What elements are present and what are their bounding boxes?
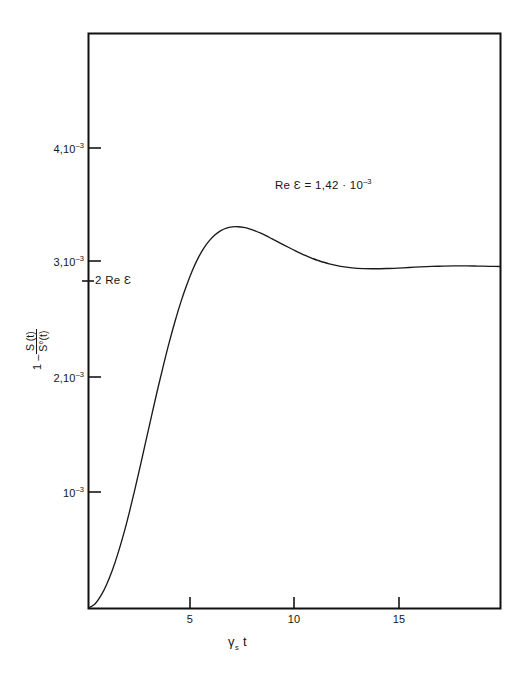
gamma-symbol: γ xyxy=(228,634,235,649)
two-re-epsilon-label: 2 Re Ɛ xyxy=(95,274,131,286)
annotation-exponent: –3 xyxy=(363,177,371,186)
y-title-numerator: S (t) xyxy=(24,329,37,354)
y-title-lead: 1 – xyxy=(31,355,43,370)
annotation-mantissa: 1,42 · 10 xyxy=(315,179,363,191)
y-tick-label-1e-3: 10–3 xyxy=(36,485,84,499)
y-title-denominator: S°(t) xyxy=(37,329,49,354)
re-epsilon-annotation: Re Ɛ = 1,42 · 10–3 xyxy=(275,177,372,191)
y-axis-title: 1 –S (t)S°(t) xyxy=(24,328,49,370)
gamma-subscript: s xyxy=(235,643,239,652)
figure-container: 4,10–3 3,10–3 2,10–3 10–3 2 Re Ɛ 5 10 15… xyxy=(0,0,519,677)
x-tick-label-5: 5 xyxy=(175,613,205,625)
x-axis-ticks xyxy=(190,597,399,609)
y-tick-label-3e-3: 3,10–3 xyxy=(36,254,84,268)
y-tick-label-4e-3: 4,10–3 xyxy=(36,141,84,155)
x-axis-title: γs t xyxy=(228,634,247,652)
time-symbol: t xyxy=(243,634,247,649)
y-tick-label-2e-3: 2,10–3 xyxy=(36,370,84,384)
x-tick-label-10: 10 xyxy=(279,613,309,625)
plot-frame xyxy=(89,34,501,609)
annotation-lead: Re Ɛ = xyxy=(275,179,312,191)
y-title-fraction: S (t)S°(t) xyxy=(24,329,49,354)
y-axis-ticks xyxy=(89,148,102,492)
plot-canvas xyxy=(0,0,519,677)
data-series-curve xyxy=(90,227,501,608)
x-tick-label-15: 15 xyxy=(384,613,414,625)
